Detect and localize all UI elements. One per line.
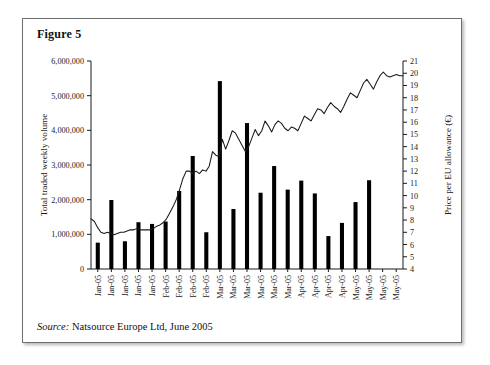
y-tick-label-right: 7 xyxy=(410,228,414,237)
x-tick-label: May-05 xyxy=(365,275,374,300)
x-tick-label: Apr-05 xyxy=(324,275,333,298)
bar xyxy=(353,202,357,269)
bar xyxy=(218,81,222,269)
y-tick-label-right: 5 xyxy=(410,253,414,262)
x-tick-label: Jan-05 xyxy=(134,275,143,296)
y-tick-label-left: 1,000,000 xyxy=(51,230,84,239)
bar xyxy=(286,190,290,269)
bar xyxy=(96,243,100,269)
y-tick-label-right: 21 xyxy=(410,57,418,66)
bar xyxy=(272,166,276,269)
bar xyxy=(150,224,154,269)
y-tick-label-left: 2,000,000 xyxy=(51,196,84,205)
chart-svg: 01,000,0002,000,0003,000,0004,000,0005,0… xyxy=(23,19,463,344)
x-tick-label: Jan-05 xyxy=(121,275,130,296)
y-tick-label-right: 12 xyxy=(410,167,418,176)
bar xyxy=(177,191,181,269)
chart-plot-area: 01,000,0002,000,0003,000,0004,000,0005,0… xyxy=(23,19,463,344)
y-tick-label-left: 0 xyxy=(80,265,84,274)
y-tick-label-right: 13 xyxy=(410,155,418,164)
y-tick-label-right: 15 xyxy=(410,130,418,139)
x-tick-label: May-05 xyxy=(352,275,361,300)
y-tick-label-right: 4 xyxy=(410,265,414,274)
y-tick-label-left: 6,000,000 xyxy=(51,57,84,66)
x-tick-label: Jan-05 xyxy=(94,275,103,296)
y-tick-label-right: 8 xyxy=(410,216,414,225)
x-tick-label: Feb-05 xyxy=(175,275,184,298)
bar xyxy=(231,209,235,269)
source-note: Source: Natsource Europe Ltd, June 2005 xyxy=(37,321,213,332)
bar xyxy=(299,181,303,269)
x-tick-label: Feb-05 xyxy=(202,275,211,298)
y-tick-label-right: 20 xyxy=(410,69,418,78)
y-tick-label-right: 18 xyxy=(410,94,418,103)
x-tick-label: Apr-05 xyxy=(311,275,320,298)
x-tick-label: Mar-05 xyxy=(284,275,293,299)
bar xyxy=(326,236,330,269)
bar xyxy=(123,241,127,269)
x-tick-label: Apr-05 xyxy=(338,275,347,298)
source-text: Natsource Europe Ltd, June 2005 xyxy=(72,321,213,332)
x-tick-label: Apr-05 xyxy=(297,275,306,298)
y-tick-label-right: 10 xyxy=(410,192,418,201)
y-tick-label-left: 3,000,000 xyxy=(51,161,84,170)
x-tick-label: Mar-05 xyxy=(216,275,225,299)
x-tick-label: Jan-05 xyxy=(107,275,116,296)
x-tick-label: Mar-05 xyxy=(270,275,279,299)
x-tick-label: Feb-05 xyxy=(162,275,171,298)
bar xyxy=(245,123,249,269)
bar xyxy=(340,223,344,269)
x-tick-label: Mar-05 xyxy=(229,275,238,299)
y-tick-label-left: 4,000,000 xyxy=(51,126,84,135)
x-tick-label: May-05 xyxy=(379,275,388,300)
y-tick-label-right: 9 xyxy=(410,204,414,213)
bar xyxy=(164,222,168,269)
bar xyxy=(259,193,263,269)
y-axis-title-right: Price per EU allowance (€) xyxy=(443,115,453,215)
x-tick-label: Jan-05 xyxy=(148,275,157,296)
y-tick-label-right: 6 xyxy=(410,241,414,250)
x-tick-label: Mar-05 xyxy=(257,275,266,299)
y-tick-label-right: 16 xyxy=(410,118,418,127)
y-tick-label-right: 11 xyxy=(410,179,418,188)
figure-container: Figure 5 01,000,0002,000,0003,000,0004,0… xyxy=(22,18,462,343)
bar xyxy=(367,180,371,269)
bar xyxy=(204,232,208,269)
bar xyxy=(313,193,317,269)
y-tick-label-right: 14 xyxy=(410,143,418,152)
source-label: Source: xyxy=(37,321,69,332)
x-tick-label: Mar-05 xyxy=(243,275,252,299)
y-tick-label-left: 5,000,000 xyxy=(51,92,84,101)
x-tick-label: Feb-05 xyxy=(189,275,198,298)
y-tick-label-right: 19 xyxy=(410,81,418,90)
x-tick-label: May-05 xyxy=(392,275,401,300)
y-tick-label-right: 17 xyxy=(410,106,418,115)
y-axis-title-left: Total traded weekly volume xyxy=(39,114,49,217)
